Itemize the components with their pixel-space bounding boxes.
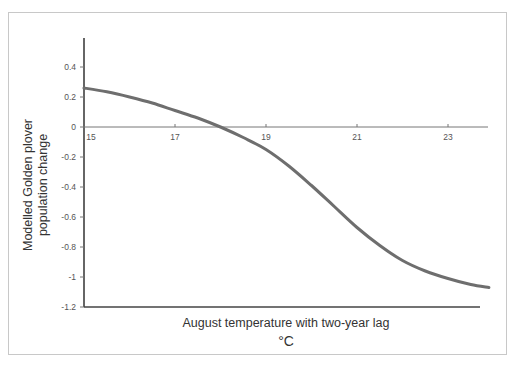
y-axis-title-line1: Modelled Golden plover — [21, 119, 35, 251]
y-tick-label: -1.2 — [61, 302, 76, 312]
x-axis-title: August temperature with two-year lag — [84, 316, 488, 330]
y-axis-title: Modelled Golden plover population change — [6, 95, 66, 275]
y-tick-label: 0 — [71, 122, 76, 132]
x-tick-label: 17 — [170, 132, 180, 142]
x-tick-label: 21 — [352, 132, 362, 142]
x-axis-unit: °C — [84, 333, 488, 349]
y-tick-label: -1 — [68, 272, 76, 282]
x-tick-label: 19 — [261, 132, 271, 142]
x-tick-label: 15 — [86, 132, 96, 142]
y-tick-label: 0.4 — [64, 62, 76, 72]
series-line — [84, 88, 489, 288]
y-axis-title-line2: population change — [36, 134, 50, 236]
x-tick-label: 23 — [443, 132, 453, 142]
